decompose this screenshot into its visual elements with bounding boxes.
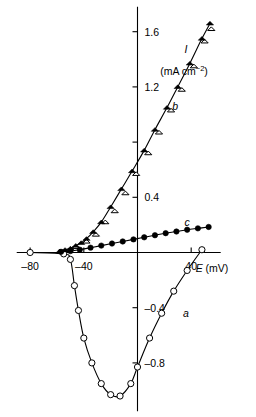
data-point-open-circle bbox=[159, 310, 165, 316]
data-point-open-circle bbox=[199, 247, 205, 253]
data-point-open-circle bbox=[81, 335, 87, 341]
curve-a bbox=[30, 250, 202, 397]
data-point-filled-triangle bbox=[151, 128, 158, 132]
data-point-filled-triangle bbox=[129, 169, 136, 173]
data-point-open-circle bbox=[171, 288, 177, 294]
data-point-open-triangle bbox=[208, 27, 215, 31]
data-point-filled-circle bbox=[195, 226, 200, 231]
data-point-open-circle bbox=[128, 381, 134, 387]
curve-label-a: a bbox=[183, 307, 189, 319]
data-point-filled-circle bbox=[58, 249, 63, 254]
x-axis-title: E (mV) bbox=[196, 262, 229, 274]
data-point-filled-circle bbox=[152, 233, 157, 238]
y-tick-label: 1.6 bbox=[145, 26, 160, 38]
data-point-filled-triangle bbox=[206, 21, 213, 25]
current-voltage-chart: 1.61.20.4–0.4–0.8–80–4040I(mA cm−2)E (mV… bbox=[0, 0, 256, 417]
data-point-open-circle bbox=[146, 335, 152, 341]
data-point-filled-triangle bbox=[198, 37, 205, 41]
data-point-open-circle bbox=[108, 392, 114, 398]
data-point-open-circle bbox=[184, 267, 190, 273]
data-point-filled-circle bbox=[77, 247, 82, 252]
curve-label-c: c bbox=[185, 216, 191, 228]
data-point-open-circle bbox=[117, 393, 123, 399]
data-point-open-circle bbox=[67, 256, 73, 262]
data-point-open-circle bbox=[89, 360, 95, 366]
data-point-open-circle bbox=[75, 307, 81, 313]
data-point-filled-triangle bbox=[118, 187, 125, 191]
y-tick-label: 1.2 bbox=[145, 81, 160, 93]
y-tick-label: 0.4 bbox=[145, 191, 160, 203]
data-point-open-circle bbox=[98, 381, 104, 387]
data-point-filled-circle bbox=[163, 230, 168, 235]
data-point-filled-circle bbox=[206, 224, 211, 229]
data-point-open-triangle bbox=[122, 191, 129, 195]
data-point-open-circle bbox=[27, 249, 33, 255]
data-point-open-triangle bbox=[111, 209, 118, 213]
data-point-filled-circle bbox=[88, 245, 93, 250]
y-tick-label: –0.8 bbox=[145, 357, 166, 369]
data-point-filled-circle bbox=[131, 237, 136, 242]
data-point-open-circle bbox=[134, 364, 140, 370]
data-point-filled-triangle bbox=[141, 148, 148, 152]
data-point-filled-triangle bbox=[186, 61, 193, 65]
data-point-filled-circle bbox=[99, 243, 104, 248]
data-point-filled-triangle bbox=[163, 106, 170, 110]
x-tick-label: –40 bbox=[75, 260, 93, 272]
data-point-filled-circle bbox=[109, 241, 114, 246]
plot-area: 1.61.20.4–0.4–0.8–80–4040I(mA cm−2)E (mV… bbox=[0, 0, 256, 417]
data-point-filled-triangle bbox=[90, 230, 97, 234]
x-tick-label: –80 bbox=[21, 260, 39, 272]
data-point-filled-circle bbox=[142, 235, 147, 240]
curve-label-b: b bbox=[172, 100, 178, 112]
data-point-filled-triangle bbox=[83, 237, 90, 241]
data-point-filled-circle bbox=[120, 239, 125, 244]
data-point-filled-circle bbox=[68, 248, 73, 253]
y-axis-title: I bbox=[185, 43, 188, 55]
data-point-filled-triangle bbox=[174, 85, 181, 89]
data-point-filled-triangle bbox=[107, 205, 114, 209]
data-point-filled-circle bbox=[174, 229, 179, 234]
data-point-open-circle bbox=[71, 283, 77, 289]
